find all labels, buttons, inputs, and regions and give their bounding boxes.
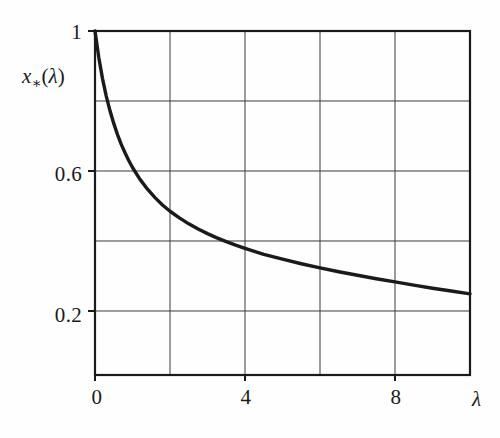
axis-ticks — [88, 31, 395, 381]
x-tick-label-8: 8 — [391, 385, 402, 410]
y-axis-title-arg: ( — [42, 64, 49, 88]
frame-rect — [95, 31, 470, 375]
plot-frame — [95, 31, 470, 375]
y-tick-label-0point6: 0.6 — [55, 161, 82, 186]
x-tick-label-4: 4 — [241, 385, 252, 410]
y-axis-title-text: x — [22, 64, 31, 88]
y-tick-label-1: 1 — [71, 20, 82, 45]
chart-plot-area — [0, 0, 500, 438]
x-tick-label-0: 0 — [92, 385, 103, 410]
curve-path — [95, 31, 470, 294]
y-axis-title: x∗(λ) — [22, 64, 65, 92]
y-axis-title-arg-close: ) — [58, 64, 65, 88]
figure-container: 1 0.6 0.2 0 4 8 x∗(λ) λ — [0, 0, 500, 438]
x-axis-title: λ — [472, 387, 481, 412]
data-curve — [95, 31, 470, 294]
gridlines — [95, 31, 470, 375]
y-tick-label-0point2: 0.2 — [55, 302, 82, 327]
y-axis-title-subscript: ∗ — [31, 75, 41, 91]
y-axis-title-lambda: λ — [49, 64, 58, 88]
